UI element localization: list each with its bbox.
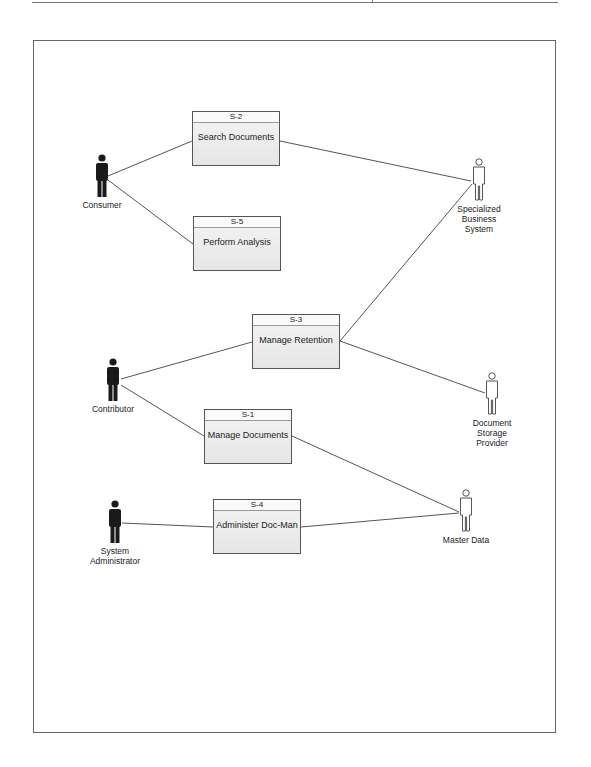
use-case-s2[interactable]: S-2 Search Documents [192,111,280,166]
secondary-actor-icon [484,372,500,416]
actor-label-line: Provider [447,438,537,448]
use-case-id: S-2 [193,112,279,123]
use-case-name: Perform Analysis [194,237,280,247]
use-case-s5[interactable]: S-5 Perform Analysis [193,216,281,271]
actor-label-line: Document [447,418,537,428]
actor-label-line: Administrator [70,556,160,566]
actor-label: Master Data [421,535,511,545]
use-case-id: S-1 [205,410,291,421]
use-case-s3[interactable]: S-3 Manage Retention [252,314,340,369]
use-case-name: Administer Doc-Man [214,520,300,530]
actor-specialized-business-system[interactable]: Specialized Business System [434,158,524,234]
use-case-id: S-4 [214,500,300,511]
actor-master-data[interactable]: Master Data [421,489,511,545]
use-case-name: Search Documents [193,132,279,142]
primary-actor-icon [94,154,110,198]
actor-label-line: Business [434,214,524,224]
actor-label-line: Specialized [434,204,524,214]
actor-label-line: System [70,546,160,556]
primary-actor-icon [107,500,123,544]
use-case-s1[interactable]: S-1 Manage Documents [204,409,292,464]
actor-document-storage-provider[interactable]: Document Storage Provider [447,372,537,448]
actor-contributor[interactable]: Contributor [68,358,158,414]
primary-actor-icon [105,358,121,402]
actor-label-line: System [434,224,524,234]
use-case-name: Manage Documents [205,430,291,440]
secondary-actor-icon [458,489,474,533]
actor-system-administrator[interactable]: System Administrator [70,500,160,566]
actor-label: Consumer [57,200,147,210]
use-case-id: S-3 [253,315,339,326]
actor-label: Contributor [68,404,158,414]
use-case-name: Manage Retention [253,335,339,345]
actor-consumer[interactable]: Consumer [57,154,147,210]
use-case-id: S-5 [194,217,280,228]
actor-label-line: Storage [447,428,537,438]
use-case-s4[interactable]: S-4 Administer Doc-Man [213,499,301,554]
secondary-actor-icon [471,158,487,202]
